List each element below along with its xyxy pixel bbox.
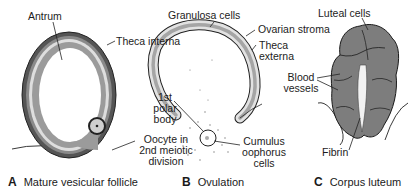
caption-panel-b: BOvulation [182,175,244,189]
label-luteal-cells: Luteal cells [318,8,371,19]
label-oocyte: Oocyte in 2nd meiotic division [135,134,197,167]
label-ovarian-stroma: Ovarian stroma [258,24,330,35]
label-antrum: Antrum [28,11,62,22]
label-theca-externa: Theca externa [259,40,294,62]
label-fibrin: Fibrin [322,147,348,158]
caption-panel-c: CCorpus luteum [314,175,401,189]
corpus-luteum-illustration [317,18,408,150]
label-theca-interna: Theca interna [116,36,180,47]
caption-panel-a: AMature vesicular follicle [8,175,138,189]
diagram-canvas [0,0,416,193]
label-first-polar-body: 1st polar body [150,92,180,125]
label-granulosa-cells: Granulosa cells [168,10,240,21]
label-cumulus-oophorus-cells: Cumulus oophorus cells [240,136,288,169]
label-blood-vessels: Blood vessels [283,72,319,94]
